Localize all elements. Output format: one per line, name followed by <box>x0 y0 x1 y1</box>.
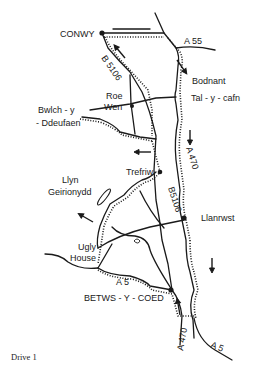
label-conwy: CONWY <box>60 29 95 39</box>
drive-route <box>80 37 198 318</box>
label-bodnant: Bodnant <box>192 76 226 86</box>
label-a470-south: A 470 <box>175 327 189 351</box>
label-tal-y-cafn: Tal - y - cafn <box>191 93 240 103</box>
town-dot-betws <box>168 287 173 292</box>
route-map: CONWY Bodnant Tal - y - cafn Roe Wen Bwl… <box>0 0 259 382</box>
town-dot-llanrwst <box>181 215 186 220</box>
place-labels: CONWY Bodnant Tal - y - cafn Roe Wen Bwl… <box>36 29 240 303</box>
label-wen: Wen <box>104 102 122 112</box>
label-ugly: Ugly <box>78 242 97 252</box>
road-trefriw-west <box>97 172 156 248</box>
road-a470-north <box>155 13 194 338</box>
label-a5-east: A 5 <box>209 340 225 354</box>
label-ddeufaen: - Ddeufaen <box>36 118 81 128</box>
label-a470-north: A 470 <box>184 146 201 171</box>
label-a5-west: A 5 <box>116 277 129 287</box>
arrow-icon <box>112 43 127 59</box>
arrow-icon <box>188 130 193 145</box>
label-a55: A 55 <box>184 36 202 46</box>
arrow-icon <box>134 150 151 155</box>
town-dot-trefriw <box>158 170 163 175</box>
town-dot-conwy <box>99 30 104 35</box>
label-llanrwst: Llanrwst <box>201 213 235 223</box>
road-a5-main <box>98 244 112 268</box>
town-dot-roe-wen <box>130 104 134 108</box>
label-roe: Roe <box>106 91 123 101</box>
arrow-icon <box>77 211 94 224</box>
arrow-icon <box>210 258 215 273</box>
road-a55 <box>176 47 215 50</box>
label-bwlch: Bwlch - y <box>38 105 75 115</box>
road-tal-y-cafn <box>90 97 176 110</box>
label-house: House <box>70 253 96 263</box>
label-b5106-south: B5106 <box>166 186 184 214</box>
map-caption: Drive 1 <box>11 352 37 362</box>
label-betws-y-coed: BETWS - Y - COED <box>84 293 164 303</box>
label-b5106-north: B 5106 <box>99 53 124 82</box>
label-geirionydd: Geirionydd <box>48 187 92 197</box>
label-trefriw: Trefriw <box>126 167 154 177</box>
label-llyn: Llyn <box>62 175 79 185</box>
pond-icon <box>134 239 140 243</box>
road-llanrwst-west <box>98 220 184 248</box>
